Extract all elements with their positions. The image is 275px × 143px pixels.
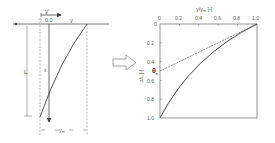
x-tick-0: 0	[158, 15, 161, 21]
y-tick-0.6: 0.6	[147, 78, 154, 84]
theta-annotation: θe	[152, 67, 159, 76]
y-label: y	[70, 17, 73, 23]
origin-label: 0,0	[45, 17, 53, 23]
ground-marker-icon	[15, 23, 17, 25]
x-tick-1.0: 1.0	[252, 15, 259, 21]
hollow-right-arrow-icon	[113, 55, 136, 70]
y-tick-0.8: 0.8	[147, 96, 154, 102]
chart-frame	[160, 24, 257, 118]
x-tick-0.2: 0.2	[175, 15, 182, 21]
x-axis-title: y/ym [-]	[196, 6, 213, 13]
ym-label: ym	[59, 127, 65, 134]
y-tick-1.0: 1.0	[147, 115, 154, 121]
x-tick-0.4: 0.4	[195, 15, 202, 21]
y-prime-label: y'	[45, 8, 49, 14]
normalized-deflection-chart: y/ym [-] 0 0.2 0.4 0.6 0.8 1.0 0 0.2 0.4…	[138, 6, 259, 121]
x-label: x	[44, 67, 47, 73]
y-axis-title: z/L [-]	[138, 69, 144, 82]
figure-canvas: y' 0,0 y x L ym y/ym [-] 0 0.2 0.4 0.6	[0, 0, 275, 143]
x-tick-0.6: 0.6	[214, 15, 221, 21]
pile-deflection-diagram: y' 0,0 y x L ym	[13, 8, 109, 135]
length-label: L	[24, 69, 28, 75]
y-tick-0.2: 0.2	[147, 40, 154, 46]
deflection-curve	[40, 24, 87, 117]
x-tick-labels: 0 0.2 0.4 0.6 0.8 1.0	[158, 15, 259, 21]
y-tick-0: 0	[154, 21, 157, 27]
y-tick-0.4: 0.4	[147, 59, 154, 65]
x-tick-0.8: 0.8	[233, 15, 240, 21]
